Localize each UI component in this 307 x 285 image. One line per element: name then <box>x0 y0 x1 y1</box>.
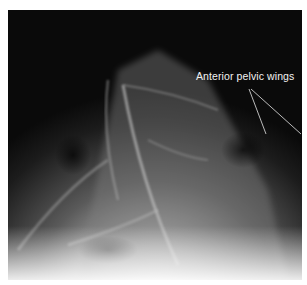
xray-image <box>8 10 302 280</box>
xray-render <box>8 10 302 280</box>
annotation-label: Anterior pelvic wings <box>196 70 294 82</box>
